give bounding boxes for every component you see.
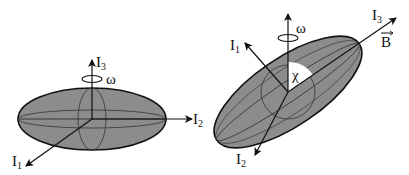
left-label-omega: ω <box>106 71 116 87</box>
left-panel: I3 ω I2 I1 <box>12 54 203 171</box>
right-label-I3: I3 <box>372 7 382 25</box>
left-label-I1: I1 <box>12 153 22 171</box>
right-label-chi: χ <box>291 67 299 83</box>
right-label-I2: I2 <box>236 151 246 169</box>
right-label-I1: I1 <box>230 37 240 55</box>
right-label-omega: ω <box>296 20 306 36</box>
right-panel: ω I1 I3 B χ I2 <box>198 7 396 169</box>
right-label-B: B <box>381 34 391 50</box>
left-label-I2: I2 <box>193 111 203 129</box>
left-label-I3: I3 <box>96 54 106 72</box>
ellipsoid-diagram: I3 ω I2 I1 ω I1 I3 B χ I2 <box>0 0 409 175</box>
